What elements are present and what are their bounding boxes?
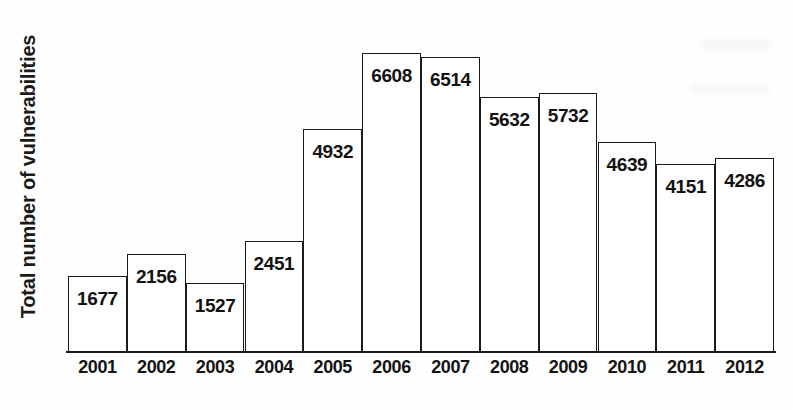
x-tick-label-2007: 2007 [421, 357, 480, 378]
plot-area: 1677215615272451493266086514563257324639… [68, 0, 774, 352]
bar-2007: 6514 [421, 0, 480, 352]
x-tick-label-2011: 2011 [656, 357, 715, 378]
bar-rect-2008 [480, 97, 539, 352]
bar-series: 1677215615272451493266086514563257324639… [68, 0, 774, 352]
y-axis-title: Total number of vulnerabilities [0, 0, 58, 352]
bar-2001: 1677 [68, 0, 127, 352]
bar-2004: 2451 [245, 0, 304, 352]
bar-rect-2003 [186, 283, 245, 352]
x-tick-label-2006: 2006 [362, 357, 421, 378]
bar-2006: 6608 [362, 0, 421, 352]
bar-value-label-2011: 4151 [656, 176, 715, 198]
bar-value-label-2012: 4286 [715, 170, 774, 192]
x-tick-label-2004: 2004 [245, 357, 304, 378]
bar-2012: 4286 [715, 0, 774, 352]
bar-value-label-2001: 1677 [68, 288, 127, 310]
bar-value-label-2006: 6608 [362, 65, 421, 87]
bar-rect-2007 [421, 57, 480, 352]
x-tick-label-2010: 2010 [598, 357, 657, 378]
x-axis-line [66, 351, 776, 353]
y-axis-title-text: Total number of vulnerabilities [18, 34, 41, 317]
x-tick-label-2005: 2005 [303, 357, 362, 378]
bar-value-label-2004: 2451 [245, 253, 304, 275]
bar-2008: 5632 [480, 0, 539, 352]
x-tick-label-2002: 2002 [127, 357, 186, 378]
bar-value-label-2005: 4932 [303, 141, 362, 163]
x-tick-label-2001: 2001 [68, 357, 127, 378]
bar-value-label-2003: 1527 [186, 295, 245, 317]
bar-rect-2006 [362, 53, 421, 352]
x-tick-label-2009: 2009 [539, 357, 598, 378]
bar-2009: 5732 [539, 0, 598, 352]
bar-value-label-2009: 5732 [539, 105, 598, 127]
bar-2002: 2156 [127, 0, 186, 352]
x-tick-label-2008: 2008 [480, 357, 539, 378]
bar-2010: 4639 [598, 0, 657, 352]
bar-2003: 1527 [186, 0, 245, 352]
bar-2011: 4151 [656, 0, 715, 352]
bar-value-label-2010: 4639 [598, 154, 657, 176]
bar-rect-2009 [539, 93, 598, 352]
x-tick-label-2012: 2012 [715, 357, 774, 378]
chart-page: Total number of vulnerabilities 16772156… [0, 0, 793, 410]
x-axis-tick-labels: 2001200220032004200520062007200820092010… [68, 357, 774, 387]
bar-2005: 4932 [303, 0, 362, 352]
bar-value-label-2002: 2156 [127, 266, 186, 288]
x-tick-label-2003: 2003 [186, 357, 245, 378]
bar-value-label-2007: 6514 [421, 69, 480, 91]
bar-value-label-2008: 5632 [480, 109, 539, 131]
